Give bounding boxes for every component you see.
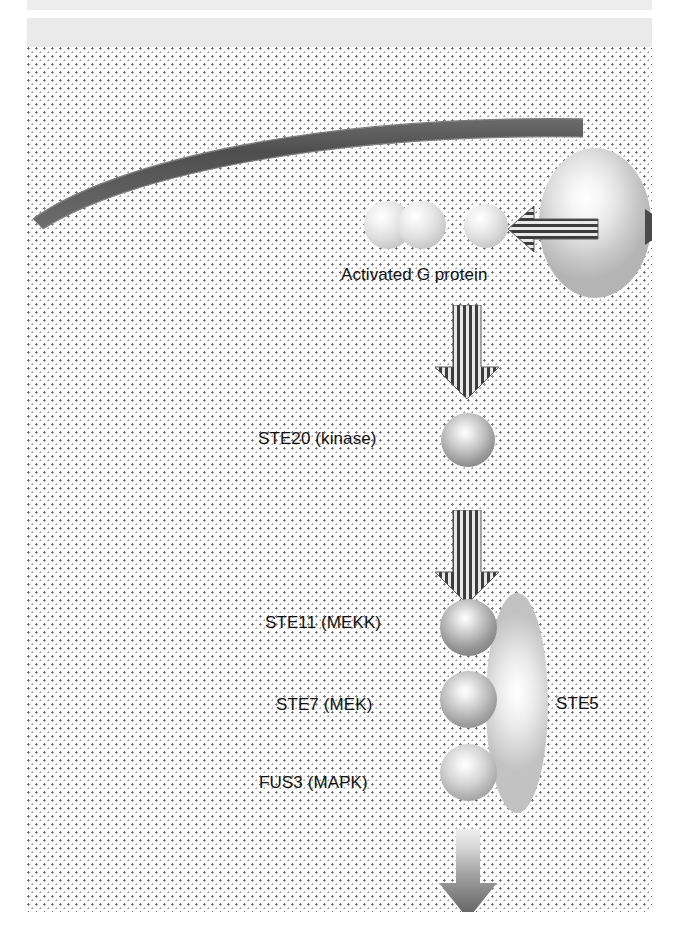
plasma-membrane bbox=[27, 97, 587, 227]
label-fus3: FUS3 (MAPK) bbox=[259, 773, 368, 793]
label-ste11: STE11 (MEKK) bbox=[265, 613, 381, 633]
header-band-top bbox=[27, 0, 652, 10]
small-arrowhead-icon bbox=[645, 207, 652, 247]
ste7-sphere bbox=[440, 671, 497, 728]
ligand-inward-arrow-icon bbox=[508, 200, 600, 258]
label-ste20: STE20 (kinase) bbox=[258, 429, 377, 449]
ste11-sphere bbox=[440, 599, 497, 656]
pathway-figure: Activated G protein STE20 (kinase) bbox=[0, 0, 681, 935]
activation-arrow-2-icon bbox=[433, 510, 505, 606]
g-gamma-subunit bbox=[398, 201, 446, 249]
output-arrow-icon bbox=[439, 829, 501, 912]
ste20-sphere bbox=[441, 413, 495, 467]
label-activated-g-protein: Activated G protein bbox=[341, 265, 487, 285]
cytoplasm-background: Activated G protein STE20 (kinase) bbox=[27, 47, 652, 912]
label-ste7: STE7 (MEK) bbox=[276, 695, 372, 715]
activation-arrow-1-icon bbox=[433, 305, 505, 401]
header-band-second bbox=[27, 18, 652, 47]
header-band-gap bbox=[27, 10, 652, 18]
g-alpha-subunit bbox=[464, 204, 508, 248]
label-ste5: STE5 bbox=[556, 694, 599, 714]
fus3-sphere bbox=[440, 744, 497, 801]
